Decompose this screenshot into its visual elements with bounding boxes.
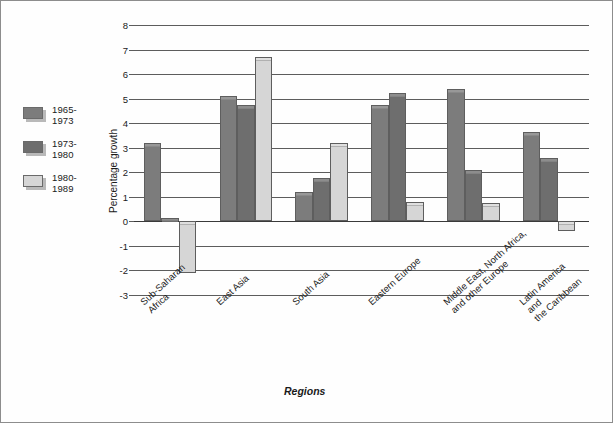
gridline-1 bbox=[134, 197, 589, 198]
y-tick-mark-5 bbox=[129, 99, 134, 100]
legend-label-0: 1965- 1973 bbox=[52, 105, 77, 126]
legend-item-0: 1965- 1973 bbox=[23, 105, 109, 132]
bar-g1-s0 bbox=[220, 96, 238, 221]
bar-g4-s0 bbox=[447, 89, 465, 222]
x-axis-title: Regions bbox=[284, 385, 325, 397]
legend-swatch-icon-1 bbox=[23, 141, 45, 155]
gridline-2 bbox=[134, 172, 589, 173]
y-tick-mark-4 bbox=[129, 123, 134, 124]
y-tick-label-6: 6 bbox=[123, 69, 128, 80]
gridline-7 bbox=[134, 50, 589, 51]
y-tick-mark-0 bbox=[129, 221, 134, 222]
gridline-6 bbox=[134, 74, 589, 75]
bar-g1-s2 bbox=[255, 57, 273, 221]
y-tick-mark--2 bbox=[129, 270, 134, 271]
bar-g2-s1 bbox=[313, 178, 331, 221]
bar-g4-s2 bbox=[482, 203, 500, 221]
legend-item-1: 1973- 1980 bbox=[23, 139, 109, 166]
bar-g0-s0 bbox=[144, 143, 162, 222]
gridline-5 bbox=[134, 99, 589, 100]
legend-label-1: 1973- 1980 bbox=[52, 139, 77, 160]
y-tick-label-8: 8 bbox=[123, 20, 128, 31]
bar-g3-s1 bbox=[389, 93, 407, 222]
bar-g5-s1 bbox=[540, 158, 558, 222]
y-tick-mark-1 bbox=[129, 197, 134, 198]
legend-swatch-icon-0 bbox=[23, 107, 45, 121]
y-tick-mark--1 bbox=[129, 246, 134, 247]
legend-item-2: 1980- 1989 bbox=[23, 173, 109, 200]
y-tick-label--2: -2 bbox=[120, 265, 128, 276]
x-axis-category-labels: Sub-Saharan AfricaEast AsiaSouth AsiaEas… bbox=[134, 295, 589, 390]
gridline-8 bbox=[134, 25, 589, 26]
bar-g5-s2 bbox=[558, 221, 576, 231]
y-tick-label--1: -1 bbox=[120, 240, 128, 251]
y-tick-mark-6 bbox=[129, 74, 134, 75]
bar-g5-s0 bbox=[523, 132, 541, 222]
y-tick-label-5: 5 bbox=[123, 93, 128, 104]
y-tick-label--3: -3 bbox=[120, 290, 128, 301]
y-tick-label-4: 4 bbox=[123, 118, 128, 129]
bar-g0-s1 bbox=[161, 218, 179, 222]
y-tick-label-1: 1 bbox=[123, 191, 128, 202]
bar-g2-s2 bbox=[330, 143, 348, 222]
y-tick-label-7: 7 bbox=[123, 44, 128, 55]
legend-label-2: 1980- 1989 bbox=[52, 173, 77, 194]
chart-legend: 1965- 1973 1973- 1980 1980- 1989 bbox=[23, 105, 109, 207]
y-tick-mark-8 bbox=[129, 25, 134, 26]
gridline--2 bbox=[134, 270, 589, 271]
chart-frame: 1965- 1973 1973- 1980 1980- 1989 Percent… bbox=[0, 0, 613, 423]
gridline-4 bbox=[134, 123, 589, 124]
y-tick-label-2: 2 bbox=[123, 167, 128, 178]
y-tick-mark-3 bbox=[129, 148, 134, 149]
bar-g1-s1 bbox=[237, 105, 255, 222]
y-tick-label-0: 0 bbox=[123, 216, 128, 227]
y-tick-mark-2 bbox=[129, 172, 134, 173]
legend-swatch-icon-2 bbox=[23, 175, 45, 189]
bar-g2-s0 bbox=[295, 192, 313, 221]
bar-g3-s0 bbox=[371, 105, 389, 222]
bar-g4-s1 bbox=[465, 170, 483, 222]
gridline-3 bbox=[134, 148, 589, 149]
y-tick-mark-7 bbox=[129, 50, 134, 51]
gridline-0 bbox=[134, 221, 589, 222]
bar-g3-s2 bbox=[406, 202, 424, 222]
y-tick-label-3: 3 bbox=[123, 142, 128, 153]
